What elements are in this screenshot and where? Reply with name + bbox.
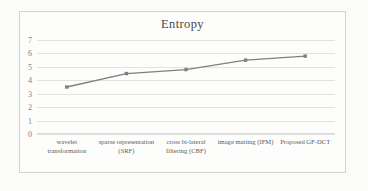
x-label-wavelet-transformation: wavelet transformation <box>37 138 97 155</box>
data-point-1 <box>125 72 128 75</box>
chart-title: Entropy <box>20 17 345 32</box>
ytick-label-2: 2 <box>28 103 32 112</box>
chart-frame: Entropy 7 6 5 4 3 2 1 <box>19 11 346 173</box>
series-polyline <box>67 56 305 87</box>
x-axis-labels: wavelet transformation sparse representa… <box>37 138 335 155</box>
ytick-label-4: 4 <box>28 76 32 85</box>
data-point-2 <box>184 68 187 71</box>
x-label-image-matting: image matting (IFM) <box>216 138 276 155</box>
series-markers <box>65 54 307 88</box>
data-point-3 <box>244 58 247 61</box>
data-point-4 <box>304 54 307 57</box>
plot-area: 7 6 5 4 3 2 1 0 <box>37 40 335 134</box>
chart-page: Entropy 7 6 5 4 3 2 1 <box>0 0 368 191</box>
ytick-label-1: 1 <box>28 116 32 125</box>
gridline-0: 0 <box>37 134 335 135</box>
ytick-label-0: 0 <box>28 130 32 139</box>
x-label-proposed-gf-dct: Proposed GF-DCT <box>275 138 335 155</box>
data-point-0 <box>65 85 68 88</box>
x-label-cross-bi-lateral-filtering: cross bi-lateral filtering (CBF) <box>156 138 216 155</box>
ytick-label-5: 5 <box>28 62 32 71</box>
ytick-label-6: 6 <box>28 49 32 58</box>
entropy-line-series <box>37 40 335 134</box>
x-label-sparse-representation: sparse representation (SRF) <box>97 138 157 155</box>
ytick-label-3: 3 <box>28 89 32 98</box>
ytick-label-7: 7 <box>28 36 32 45</box>
